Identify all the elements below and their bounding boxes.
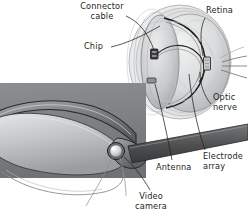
label-video-camera: Video camera — [126, 192, 176, 211]
diagram-artwork — [0, 0, 248, 224]
label-chip: Chip — [84, 42, 110, 52]
video-camera-part — [108, 143, 125, 160]
antenna-part — [147, 78, 156, 83]
electrode-array-part — [204, 57, 211, 70]
label-connector-cable: Connector cable — [74, 2, 130, 21]
chip-part — [151, 49, 159, 59]
label-retina: Retina — [206, 6, 246, 16]
label-electrode-array: Electrode array — [203, 152, 248, 171]
label-optic-nerve: Optic nerve — [213, 93, 248, 112]
label-antenna: Antenna — [156, 163, 198, 173]
retinal-implant-figure: Connector cable Retina Chip Optic nerve … — [0, 0, 248, 224]
